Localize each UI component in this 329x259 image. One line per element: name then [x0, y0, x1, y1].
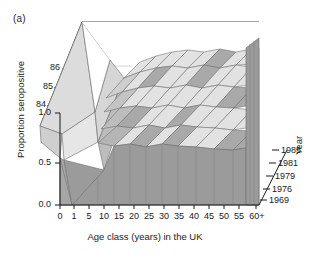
x-axis-ticks [60, 205, 256, 209]
y-tick-0-0: 0.0 [18, 199, 51, 209]
x-axis-title: Age class (years) in the UK [0, 231, 290, 242]
surface-mesh [40, 22, 287, 209]
surface-facets [40, 22, 259, 205]
z-tick-1976: 1976 [272, 184, 292, 194]
z-tick-1969: 1969 [269, 195, 289, 205]
y-axis-title: Proportion seropositive [15, 50, 26, 170]
right-wall [246, 38, 259, 205]
x-tick-60plus: 60+ [244, 211, 270, 221]
figure-3d-surface-chart: (a) [0, 0, 329, 259]
z-axis-title: Year [293, 116, 304, 176]
